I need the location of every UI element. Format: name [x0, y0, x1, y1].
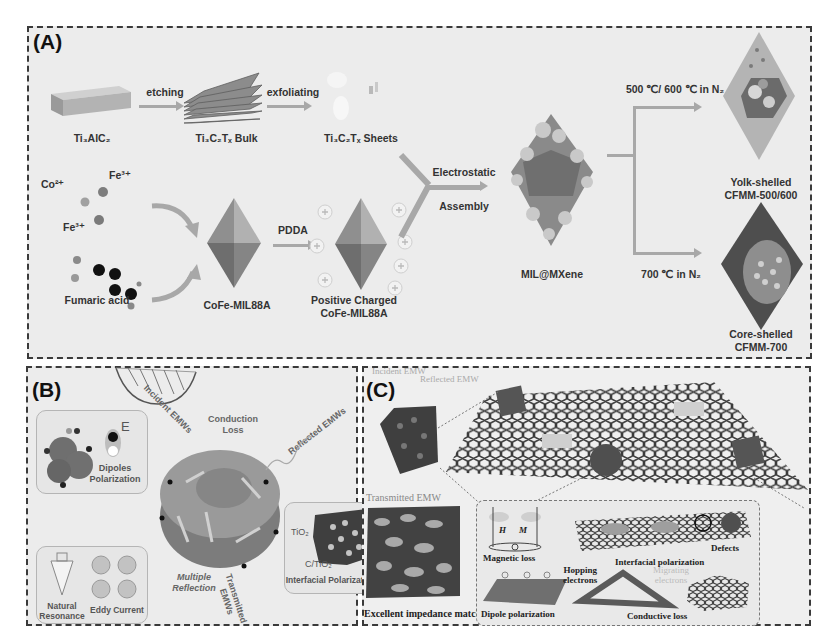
positive-charged-line1: Positive Charged — [311, 294, 397, 306]
tio2-label: TiO₂ — [291, 527, 309, 537]
panel-b-label: (B) — [32, 378, 61, 402]
bulk-label: Ti₃C₂Tₓ Bulk — [179, 132, 274, 144]
impedance-matching-label: Excellent impedance matching — [364, 608, 495, 619]
core-shelled-label: Core-shelled CFMM-700 — [711, 328, 811, 354]
lower-branch-arrow — [633, 252, 695, 255]
panel-c-mxene-composite: (C) Incident EMW Reflected EMW Transmitt… — [362, 366, 811, 626]
reflected-wave-icon — [264, 434, 314, 474]
yolk-shelled-line1: Yolk-shelled — [730, 176, 791, 188]
positive-octahedron-icon — [311, 194, 411, 294]
positive-charged-label: Positive Charged CoFe-MIL88A — [299, 294, 409, 320]
dipoles-line1: Dipoles — [99, 463, 132, 473]
mil-mxene-label: MIL@MXene — [507, 268, 597, 280]
multiple-line1: Multiple — [177, 572, 211, 582]
etching-arrow — [139, 105, 177, 108]
dipoles-inset: E Dipoles Polarization — [36, 410, 148, 494]
conduction-line2: Loss — [222, 425, 243, 435]
transmitted-emws-label: Transmitted EMWs — [214, 573, 249, 628]
exfoliating-label: exfoliating — [261, 86, 325, 98]
cofe-mil88a-label: CoFe-MIL88A — [187, 299, 287, 311]
metal-ions-icon — [69, 178, 139, 238]
upper-condition-label: 500 ℃/ 600 ℃ in N₂ — [615, 83, 735, 95]
c-tio2-label: C/TiO₂ — [305, 559, 332, 569]
natural-line2: Resonance — [39, 611, 84, 621]
dipoles-polarization-label: Dipoles Polarization — [85, 463, 145, 485]
assembly-arrow — [429, 185, 481, 190]
magnetic-loss-icon — [485, 505, 545, 553]
yolk-shelled-line2: CFMM-500/600 — [725, 189, 798, 201]
fumaric-acid-label: Fumaric acid — [47, 294, 147, 306]
pdda-arrow — [273, 244, 309, 247]
panel-b-absorption-mechanism: (B) Incident EMWs E Dipoles Polarization — [26, 366, 358, 626]
yolk-shelled-label: Yolk-shelled CFMM-500/600 — [711, 176, 811, 202]
defects-label: Defects — [711, 543, 739, 553]
ti3alc2-label: Ti₃AlC₂ — [57, 132, 127, 144]
multiple-line2: Reflection — [172, 583, 216, 593]
mxene-bulk-icon — [184, 73, 264, 133]
resonance-eddy-inset: Natural Resonance Eddy Current — [36, 546, 148, 624]
positive-charged-line2: CoFe-MIL88A — [320, 307, 387, 319]
porous-network-icon — [364, 506, 464, 600]
conduction-loss-label: Conduction Loss — [198, 414, 268, 436]
lower-condition-label: 700 ℃ in N₂ — [621, 268, 721, 280]
exfoliating-arrow — [267, 105, 305, 108]
assembly-label: Assembly — [433, 200, 495, 212]
eddy-current-label: Eddy Current — [87, 605, 147, 615]
co2-label: Co²⁺ — [41, 178, 65, 190]
sheets-label: Ti₃C₂Tₓ Sheets — [311, 132, 411, 144]
mxene-sheets-icon — [319, 68, 399, 128]
split-vertical — [633, 106, 636, 254]
dipole-lattice-icon — [483, 571, 569, 607]
pdda-label: PDDA — [273, 224, 313, 236]
dipoles-line2: Polarization — [89, 474, 140, 484]
dipole-polarization-label: Dipole polarization — [481, 609, 555, 619]
eddy-current-icon — [89, 553, 139, 601]
upper-branch-arrow — [633, 106, 695, 109]
e-field-label: E — [121, 419, 130, 434]
natural-resonance-label: Natural Resonance — [37, 601, 87, 621]
conductive-loss-label: Conductive loss — [627, 611, 687, 621]
conduction-line1: Conduction — [208, 414, 258, 424]
panel-a-synthesis-scheme: (A) Ti₃AlC₂ etching Ti₃C₂Tₓ Bulk exfolia… — [27, 26, 812, 359]
magnetic-loss-label: Magnetic loss — [483, 553, 535, 563]
loss-mechanisms-inset: H M Magnetic loss Defects Interfacial po… — [476, 500, 760, 626]
cofe-mil88a-octahedron-icon — [207, 198, 261, 288]
panel-a-label: (A) — [33, 30, 62, 54]
split-stem — [607, 154, 633, 157]
core-shelled-line2: CFMM-700 — [735, 341, 788, 353]
m-label: M — [519, 525, 527, 535]
ti3alc2-block-icon — [51, 86, 131, 126]
electrostatic-label: Electrostatic — [429, 166, 499, 178]
yolk-shelled-particle-icon — [721, 32, 797, 162]
natural-resonance-icon — [47, 551, 77, 601]
curved-arrows-icon — [147, 188, 207, 308]
h-label: H — [499, 525, 506, 535]
mil-mxene-particle-icon — [503, 110, 599, 250]
conductive-network-icon — [577, 571, 757, 611]
core-shelled-particle-icon — [717, 202, 807, 332]
natural-line1: Natural — [47, 601, 76, 611]
core-shelled-line1: Core-shelled — [729, 328, 793, 340]
